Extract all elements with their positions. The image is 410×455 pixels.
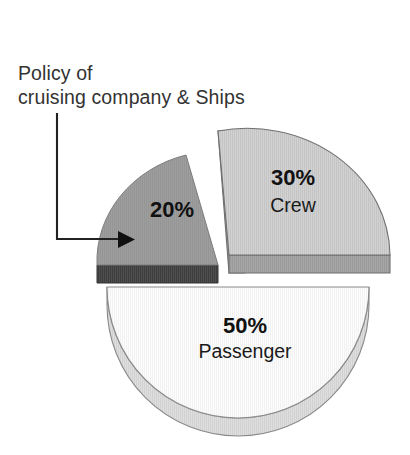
callout-line-1: Policy of (18, 62, 93, 84)
callout-line-2: cruising company & Ships (18, 86, 245, 108)
pie-chart-svg: 50% Passenger 30% Crew 20% (0, 0, 410, 455)
pie-chart-figure: 50% Passenger 30% Crew 20% (0, 0, 410, 455)
crew-slice-side-front (229, 255, 390, 273)
pie-slice-passenger[interactable]: 50% Passenger (107, 287, 369, 436)
crew-slice-top (218, 128, 390, 255)
passenger-name-label: Passenger (198, 340, 292, 362)
crew-name-label: Crew (270, 194, 316, 216)
policy-percent-label: 20% (150, 197, 194, 222)
passenger-percent-label: 50% (223, 313, 267, 338)
policy-slice-side (97, 265, 218, 283)
pie-slice-policy[interactable]: 20% (97, 155, 218, 283)
crew-percent-label: 30% (271, 165, 315, 190)
pie-slice-crew[interactable]: 30% Crew (218, 128, 390, 273)
callout-label: Policy of cruising company & Ships (18, 62, 245, 108)
